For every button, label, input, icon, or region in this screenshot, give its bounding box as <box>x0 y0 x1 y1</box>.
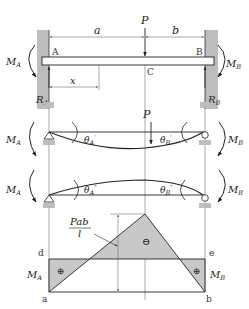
sign-negative: ⊖ <box>142 236 150 247</box>
label-b: b <box>172 24 179 37</box>
pin-support-a-3 <box>44 195 54 202</box>
moment-mb-arrow-2 <box>218 122 225 156</box>
point-e-label: e <box>209 248 214 258</box>
moment-mb-label-3: MB <box>227 184 243 197</box>
peak-label-denominator: l <box>78 228 81 239</box>
panel-simple-beam-moments: θA″ θB″ MA MB <box>5 170 243 208</box>
point-c-label: C <box>147 67 154 77</box>
moment-ma-label-3: MA <box>5 184 21 197</box>
moment-ma-label: MA <box>5 56 21 69</box>
beam <box>42 57 214 65</box>
label-x: x <box>70 75 76 86</box>
point-a-label: A <box>51 47 59 57</box>
sign-positive-right: ⊕ <box>193 266 201 276</box>
ma-diagram-label: MA <box>26 269 42 282</box>
theta-b1-label: θB′ <box>160 134 172 147</box>
mb-diagram-label: MB <box>209 269 225 282</box>
peak-label-numerator: Pab <box>69 216 89 227</box>
point-b-label: B <box>196 47 203 57</box>
point-a-diagram-label: a <box>42 294 48 304</box>
deflected-curve-up <box>49 180 203 195</box>
point-d-label: d <box>38 248 44 258</box>
negative-region <box>90 214 180 259</box>
label-a: a <box>94 24 101 37</box>
moment-ma-arrow <box>29 45 36 77</box>
moment-mb-label-2: MB <box>227 134 243 147</box>
point-b-diagram-label: b <box>206 294 212 304</box>
load-p-label: P <box>140 14 149 27</box>
beam-diagram: a b P A B C x RA RB MA MB P <box>0 0 249 309</box>
load-p-label-2: P <box>142 108 151 121</box>
moment-ma-label-2: MA <box>5 134 21 147</box>
moment-ma-arrow-2 <box>29 122 36 156</box>
moment-mb-label: MB <box>225 58 241 71</box>
roller-support-b-3 <box>202 195 209 202</box>
moment-mb-arrow <box>218 45 225 77</box>
deflected-curve-down <box>49 132 203 149</box>
bending-moment-diagram: Pab l ⊖ ⊕ ⊕ d e a b MA MB <box>26 214 225 304</box>
roller-support-b <box>202 132 209 139</box>
moment-ma-arrow-3 <box>29 170 36 202</box>
sign-positive-left: ⊕ <box>57 266 65 276</box>
moment-mb-arrow-3 <box>218 170 225 202</box>
